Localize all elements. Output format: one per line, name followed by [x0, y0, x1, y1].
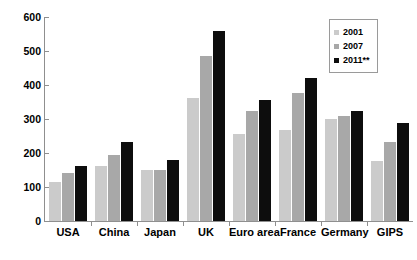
- bar: [213, 31, 225, 221]
- x-axis-tick-label: UK: [183, 226, 229, 238]
- x-axis-tick: [229, 222, 230, 226]
- bar: [167, 160, 179, 221]
- y-axis-tick: [45, 187, 49, 188]
- legend-item: 2011**: [334, 53, 373, 67]
- y-axis-tick: [45, 119, 49, 120]
- legend-item: 2007: [334, 39, 373, 53]
- y-axis-tick-label: 500: [3, 46, 41, 56]
- y-axis-tick: [45, 221, 49, 222]
- chart-legend: 200120072011**: [329, 19, 378, 73]
- x-axis-tick-label: Euro area: [229, 226, 275, 238]
- bar: [49, 182, 61, 221]
- bar-group: [183, 17, 229, 221]
- x-axis-tick: [321, 222, 322, 226]
- x-axis-tick-label: Japan: [137, 226, 183, 238]
- legend-color-swatch: [334, 58, 339, 63]
- legend-item: 2001: [334, 25, 373, 39]
- bar: [279, 130, 291, 221]
- bar: [292, 93, 304, 221]
- legend-label: 2001: [343, 28, 363, 37]
- legend-color-swatch: [334, 44, 339, 49]
- bar: [259, 100, 271, 221]
- y-axis-tick: [45, 153, 49, 154]
- y-axis-tick-label: 600: [3, 12, 41, 22]
- y-axis-tick-label: 300: [3, 114, 41, 124]
- y-axis-tick: [45, 51, 49, 52]
- x-axis-tick: [183, 222, 184, 226]
- bar: [95, 166, 107, 221]
- bar-group: [229, 17, 275, 221]
- bar: [108, 155, 120, 221]
- bar: [371, 161, 383, 221]
- y-axis-tick-label: 200: [3, 148, 41, 158]
- y-axis-tick-label: 100: [3, 182, 41, 192]
- bar: [141, 170, 153, 221]
- bar: [121, 142, 133, 221]
- bar: [351, 111, 363, 222]
- y-axis-labels: 0100200300400500600: [0, 0, 41, 260]
- bar: [154, 170, 166, 221]
- bar-chart: 0100200300400500600 USAChinaJapanUKEuro …: [0, 0, 417, 260]
- bar: [325, 119, 337, 221]
- bar: [246, 111, 258, 222]
- y-axis-tick-label: 400: [3, 80, 41, 90]
- bar-group: [45, 17, 91, 221]
- legend-color-swatch: [334, 30, 339, 35]
- bar-group: [91, 17, 137, 221]
- bar: [200, 56, 212, 221]
- bar-group: [275, 17, 321, 221]
- y-axis-tick: [45, 17, 49, 18]
- bar: [187, 98, 199, 221]
- x-axis-tick-label: China: [91, 226, 137, 238]
- bar: [384, 142, 396, 221]
- legend-label: 2011**: [343, 56, 370, 65]
- x-axis-tick-label: France: [275, 226, 321, 238]
- bar: [338, 116, 350, 221]
- legend-label: 2007: [343, 42, 363, 51]
- x-axis-tick-label: USA: [45, 226, 91, 238]
- bar-group: [137, 17, 183, 221]
- x-axis-tick: [137, 222, 138, 226]
- x-axis-labels: USAChinaJapanUKEuro areaFranceGermanyGIP…: [45, 226, 413, 248]
- bar: [75, 166, 87, 221]
- y-axis-tick-label: 0: [3, 216, 41, 226]
- y-axis-tick: [45, 85, 49, 86]
- x-axis-tick: [275, 222, 276, 226]
- x-axis-tick: [91, 222, 92, 226]
- bar: [305, 78, 317, 221]
- bar: [62, 173, 74, 221]
- x-axis-tick-label: Germany: [321, 226, 367, 238]
- x-axis-tick-label: GIPS: [367, 226, 413, 238]
- bar: [233, 134, 245, 221]
- x-axis-tick: [367, 222, 368, 226]
- bar: [397, 123, 409, 221]
